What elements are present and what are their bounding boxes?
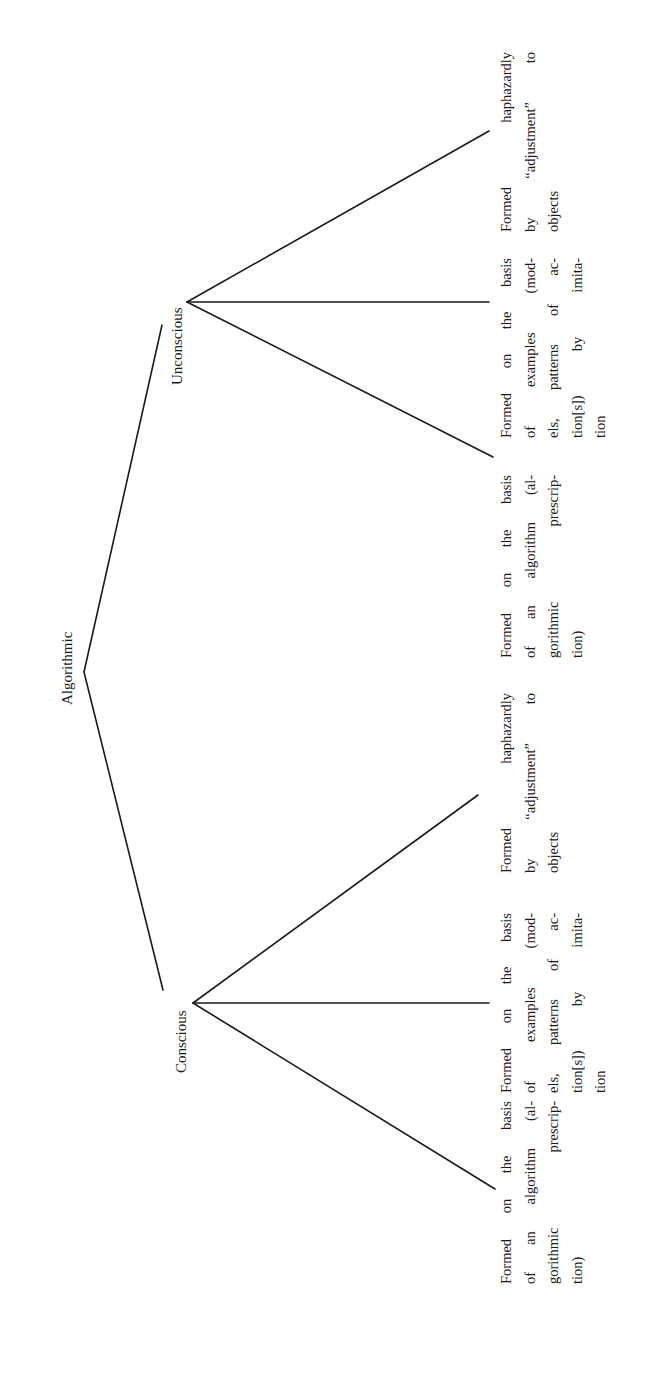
leaf-line: gorithmic prescrip- — [542, 1101, 566, 1284]
leaf-line: Formed on the basis — [495, 1101, 519, 1284]
leaf-line: Formed haphazardly — [495, 693, 519, 873]
leaf-line: els, patterns of ac- — [542, 258, 566, 438]
root-node-label: Algorithmic — [58, 632, 76, 705]
leaf-line: of examples (mod- — [519, 258, 543, 438]
leaf-unconscious-examples: Formed on the basis of examples (mod- el… — [495, 258, 613, 438]
leaf-line: tion[s]) by imita- — [566, 913, 590, 1093]
leaf-line: Formed on the basis — [495, 913, 519, 1093]
leaf-conscious-algorithm: Formed on the basis of an algorithm (al-… — [495, 1101, 589, 1284]
leaf-line: by “adjustment” to — [519, 693, 543, 873]
edge-root-unconscious — [84, 325, 162, 672]
leaf-line: tion[s]) by imita- — [566, 258, 590, 438]
leaf-line: els, patterns of ac- — [542, 913, 566, 1093]
edge-unconscious-algorithm — [187, 302, 493, 457]
leaf-conscious-examples: Formed on the basis of examples (mod- el… — [495, 913, 613, 1093]
leaf-line: Formed haphazardly — [495, 52, 519, 232]
branch-label-conscious: Conscious — [172, 1010, 190, 1073]
leaf-line: of an algorithm (al- — [519, 1101, 543, 1284]
leaf-line: objects — [542, 693, 566, 873]
edge-unconscious-haphazard — [187, 131, 489, 302]
leaf-line: tion) — [566, 475, 590, 658]
leaf-unconscious-haphazard: Formed haphazardly by “adjustment” to ob… — [495, 52, 566, 232]
leaf-line: gorithmic prescrip- — [542, 475, 566, 658]
edge-root-conscious — [84, 672, 163, 990]
leaf-line: of examples (mod- — [519, 913, 543, 1093]
leaf-line: tion — [589, 913, 613, 1093]
leaf-line: tion) — [566, 1101, 590, 1284]
edge-conscious-haphazard — [193, 795, 478, 1003]
leaf-line: of an algorithm (al- — [519, 475, 543, 658]
leaf-line: Formed on the basis — [495, 475, 519, 658]
leaf-line: tion — [589, 258, 613, 438]
leaf-line: objects — [542, 52, 566, 232]
leaf-conscious-haphazard: Formed haphazardly by “adjustment” to ob… — [495, 693, 566, 873]
leaf-line: by “adjustment” to — [519, 52, 543, 232]
leaf-unconscious-algorithm: Formed on the basis of an algorithm (al-… — [495, 475, 589, 658]
edge-conscious-algorithm — [193, 1003, 495, 1189]
branch-label-unconscious: Unconscious — [168, 308, 186, 386]
leaf-line: Formed on the basis — [495, 258, 519, 438]
